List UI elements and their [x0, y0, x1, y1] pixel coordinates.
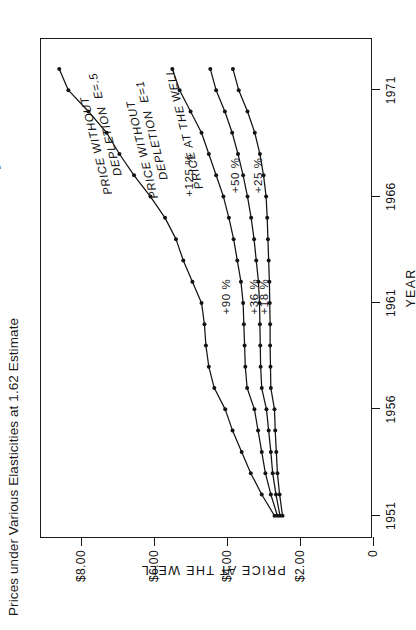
data-point-marker: [212, 386, 216, 390]
y-axis-tick: [227, 537, 228, 546]
x-axis-tick-label: 1966: [384, 182, 398, 210]
data-point-marker: [163, 216, 167, 220]
data-point-marker: [275, 471, 279, 475]
percent-annotation-1: +125 %: [183, 154, 195, 197]
data-point-marker: [240, 450, 244, 454]
data-point-marker: [200, 301, 204, 305]
y-axis-tick: [154, 537, 155, 546]
plot-area: 0$2.00$4.00$6.00$8.001951195619611966197…: [40, 38, 372, 538]
data-point-marker: [174, 237, 178, 241]
data-point-marker: [271, 471, 275, 475]
y-axis-tick: [81, 537, 82, 546]
x-axis-tick-label: 1951: [384, 502, 398, 530]
data-point-marker: [243, 344, 247, 348]
data-point-marker: [265, 216, 269, 220]
data-point-marker: [264, 195, 268, 199]
data-point-marker: [264, 407, 268, 411]
x-axis-tick: [371, 196, 380, 197]
data-point-marker: [241, 301, 245, 305]
data-point-marker: [278, 492, 282, 496]
data-point-marker: [258, 344, 262, 348]
data-point-marker: [245, 109, 249, 113]
data-point-marker: [268, 344, 272, 348]
chart-caption: Prices under Various Elasticities at 1.6…: [6, 0, 21, 630]
y-axis-tick: [300, 537, 301, 546]
data-point-marker: [132, 173, 136, 177]
percent-annotation-2: +90 %: [220, 279, 232, 315]
percent-annotation-6: +18 %: [258, 279, 270, 315]
data-point-marker: [263, 471, 267, 475]
percent-annotation-3: +50 %: [229, 157, 241, 193]
x-axis-tick: [371, 408, 380, 409]
data-point-marker: [235, 258, 239, 262]
percent-annotation-5: +25 %: [252, 157, 264, 193]
data-point-marker: [274, 492, 278, 496]
x-axis-tick: [371, 89, 380, 90]
data-point-marker: [272, 407, 276, 411]
data-point-marker: [258, 152, 262, 156]
data-point-marker: [181, 258, 185, 262]
x-axis-tick-label: 1956: [384, 395, 398, 423]
y-axis-tick: [373, 537, 374, 546]
data-point-marker: [252, 237, 256, 241]
data-point-marker: [268, 322, 272, 326]
data-point-marker: [252, 407, 256, 411]
data-point-marker: [281, 514, 285, 518]
data-point-marker: [57, 67, 61, 71]
data-point-marker: [243, 365, 247, 369]
data-point-marker: [241, 173, 245, 177]
data-point-marker: [237, 88, 241, 92]
data-point-marker: [269, 492, 273, 496]
data-point-marker: [249, 216, 253, 220]
x-axis-tick: [371, 302, 380, 303]
y-axis-tick-label: 0: [366, 550, 380, 557]
data-point-marker: [253, 131, 257, 135]
data-point-marker: [268, 365, 272, 369]
data-point-marker: [260, 386, 264, 390]
data-point-marker: [260, 492, 264, 496]
x-axis-tick: [371, 515, 380, 516]
data-point-marker: [260, 450, 264, 454]
data-point-marker: [274, 450, 278, 454]
data-point-marker: [231, 67, 235, 71]
data-point-marker: [223, 109, 227, 113]
data-point-marker: [236, 152, 240, 156]
data-point-marker: [214, 173, 218, 177]
data-point-marker: [259, 365, 263, 369]
data-point-marker: [239, 280, 243, 284]
data-point-marker: [256, 429, 260, 433]
data-point-marker: [242, 322, 246, 326]
data-point-marker: [214, 88, 218, 92]
data-point-marker: [200, 131, 204, 135]
data-point-marker: [189, 109, 193, 113]
data-point-marker: [66, 88, 70, 92]
data-point-marker: [227, 216, 231, 220]
data-point-marker: [245, 195, 249, 199]
x-axis-tick-label: 1971: [384, 76, 398, 104]
data-point-marker: [207, 152, 211, 156]
y-axis-title: PRICE AT THE WELL: [83, 563, 343, 577]
data-point-marker: [249, 471, 253, 475]
rotated-figure-container: Prices under Various Elasticities at 1.6…: [0, 0, 416, 630]
chart-figure: Prices under Various Elasticities at 1.6…: [0, 0, 416, 630]
data-point-marker: [269, 450, 273, 454]
data-point-marker: [231, 429, 235, 433]
data-point-marker: [267, 429, 271, 433]
data-point-marker: [232, 237, 236, 241]
data-point-marker: [207, 365, 211, 369]
data-point-marker: [204, 344, 208, 348]
data-point-marker: [221, 195, 225, 199]
data-point-marker: [223, 407, 227, 411]
data-point-marker: [245, 386, 249, 390]
data-point-marker: [269, 386, 273, 390]
data-point-marker: [190, 280, 194, 284]
data-point-marker: [208, 67, 212, 71]
data-point-marker: [254, 258, 258, 262]
data-point-marker: [202, 322, 206, 326]
data-point-marker: [273, 429, 277, 433]
data-point-marker: [266, 237, 270, 241]
data-point-marker: [267, 258, 271, 262]
data-point-marker: [230, 131, 234, 135]
plot-inner: 0$2.00$4.00$6.00$8.001951195619611966197…: [41, 39, 371, 537]
x-axis-title: YEAR: [404, 38, 416, 538]
